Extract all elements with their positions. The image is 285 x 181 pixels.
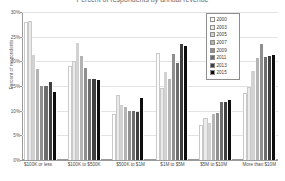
bar <box>53 92 57 160</box>
legend-label: 2015 <box>217 70 227 75</box>
gridline: 0% <box>22 160 278 161</box>
x-axis-tick-label: $500K to $1M <box>116 162 145 178</box>
legend-swatch-icon <box>210 17 215 22</box>
legend-swatch-icon <box>210 32 215 37</box>
x-axis-tick-label: $5M to $10M <box>200 162 227 178</box>
legend-swatch-icon <box>210 63 215 68</box>
bar <box>97 80 101 160</box>
legend-item[interactable]: 2013 <box>210 62 237 70</box>
y-tick-label: 15% <box>11 84 20 89</box>
bar <box>184 46 188 160</box>
bar <box>228 100 232 160</box>
legend-label: 2003 <box>217 25 227 30</box>
legend-label: 2013 <box>217 63 227 68</box>
y-tick-label: 0% <box>13 158 20 163</box>
legend-item[interactable]: 2009 <box>210 46 237 54</box>
chart-title: Percent of respondents by annual revenue <box>0 0 285 8</box>
legend-item[interactable]: 2003 <box>210 24 237 32</box>
legend-swatch-icon <box>210 48 215 53</box>
legend-label: 2007 <box>217 40 227 45</box>
legend-swatch-icon <box>210 25 215 30</box>
legend-item[interactable]: 2011 <box>210 54 237 62</box>
bar-group <box>68 12 101 160</box>
x-axis-tick-label: $100K to $500K <box>68 162 101 178</box>
y-tick-label: 30% <box>11 10 20 15</box>
y-axis-label: Percent of respondents <box>9 20 14 110</box>
bar-group <box>243 12 276 160</box>
legend-swatch-icon <box>210 55 215 60</box>
y-tick-label: 25% <box>11 34 20 39</box>
x-axis-labels: $100K or less$100K to $500K$500K to $1M$… <box>22 162 278 178</box>
legend-item[interactable]: 2007 <box>210 39 237 47</box>
legend-item[interactable]: 2005 <box>210 31 237 39</box>
legend-label: 2005 <box>217 32 227 37</box>
bar <box>140 98 144 160</box>
bar-group <box>156 12 189 160</box>
legend-item[interactable]: 2015 <box>210 69 237 77</box>
x-axis-tick-label: $1M to $5M <box>160 162 184 178</box>
legend-item[interactable]: 2000 <box>210 16 237 24</box>
y-tick-label: 10% <box>11 108 20 113</box>
y-tick-mark <box>20 160 22 161</box>
legend-label: 2009 <box>217 48 227 53</box>
bar-group <box>112 12 145 160</box>
bar-group <box>24 12 57 160</box>
legend[interactable]: 20002003200520072009201120132015 <box>206 13 240 80</box>
y-tick-label: 5% <box>13 133 20 138</box>
x-axis-tick-label: More than $10M <box>243 162 276 178</box>
legend-label: 2000 <box>217 17 227 22</box>
legend-label: 2011 <box>217 55 227 60</box>
bar-chart: Percent of respondents by annual revenue… <box>0 0 285 181</box>
legend-swatch-icon <box>210 40 215 45</box>
x-axis-tick-label: $100K or less <box>24 162 52 178</box>
y-tick-label: 20% <box>11 59 20 64</box>
bar <box>272 55 276 160</box>
legend-swatch-icon <box>210 70 215 75</box>
